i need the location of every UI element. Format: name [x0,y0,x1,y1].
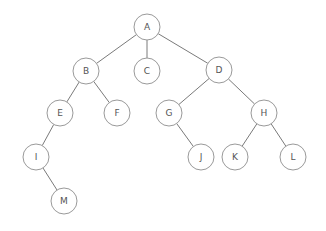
node-c: C [134,58,160,84]
node-label: H [261,108,268,118]
edge-a-d [158,34,208,64]
node-label: M [60,196,68,206]
node-label: G [166,108,173,118]
node-j: J [188,144,214,170]
node-label: F [114,108,119,118]
node-b: B [73,58,99,84]
edge-i-m [43,168,57,190]
edge-h-k [242,124,257,146]
edge-b-f [94,81,110,102]
node-k: K [222,144,248,170]
edge-b-e [67,82,79,102]
edge-a-b [97,35,137,64]
tree-diagram: ABCDEFGHIJKLM [0,0,326,231]
edge-e-i [42,124,54,145]
edge-g-j [177,124,194,147]
node-g: G [156,100,182,126]
node-i: I [23,144,49,170]
node-label: D [216,65,223,75]
node-f: F [104,100,130,126]
edge-h-l [271,124,286,146]
node-e: E [47,100,73,126]
node-label: J [199,152,203,162]
node-label: A [144,22,151,32]
nodes-layer: ABCDEFGHIJKLM [23,14,306,214]
node-label: B [83,66,89,76]
node-d: D [206,57,232,83]
node-label: C [144,66,150,76]
edge-d-g [179,78,209,104]
tree-svg: ABCDEFGHIJKLM [0,0,326,231]
node-a: A [134,14,160,40]
edge-d-h [228,79,254,104]
node-label: E [57,108,63,118]
node-h: H [251,100,277,126]
node-label: L [290,152,295,162]
node-m: M [51,188,77,214]
node-l: L [280,144,306,170]
node-label: I [35,152,38,162]
